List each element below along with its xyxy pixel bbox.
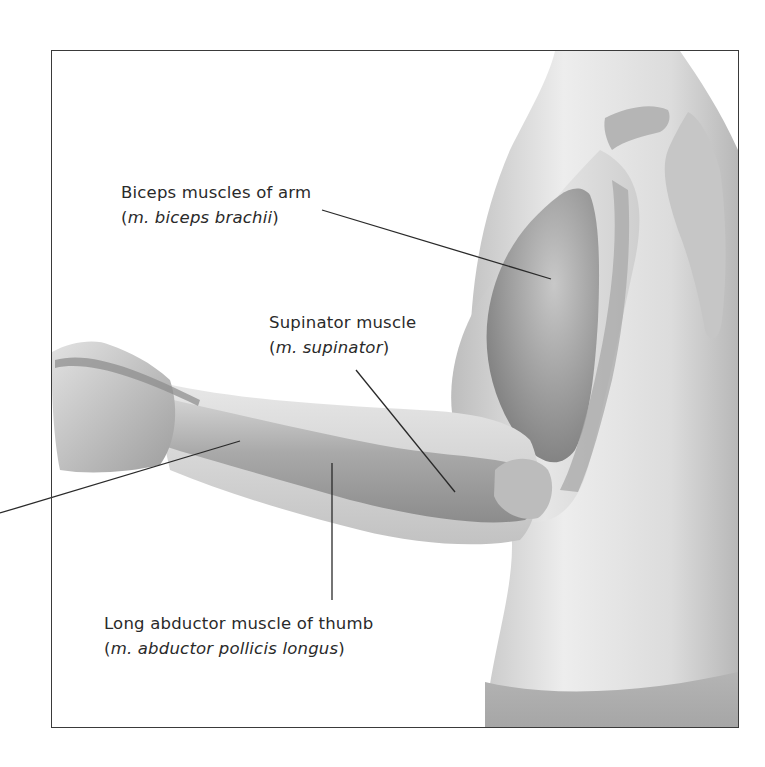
label-abductor-common: Long abductor muscle of thumb — [104, 614, 373, 633]
label-supinator: Supinator muscle (m. supinator) — [269, 310, 416, 360]
label-abductor-latin: (m. abductor pollicis longus) — [104, 636, 373, 661]
label-biceps-latin: (m. biceps brachii) — [121, 205, 311, 230]
label-supinator-common: Supinator muscle — [269, 313, 416, 332]
label-biceps: Biceps muscles of arm (m. biceps brachii… — [121, 180, 311, 230]
label-supinator-latin: (m. supinator) — [269, 335, 416, 360]
anatomy-figure: Biceps muscles of arm (m. biceps brachii… — [0, 0, 765, 767]
label-abductor: Long abductor muscle of thumb (m. abduct… — [104, 611, 373, 661]
label-biceps-common: Biceps muscles of arm — [121, 183, 311, 202]
